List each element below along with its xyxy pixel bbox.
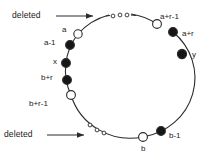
deleted-bottom-mark-2 xyxy=(102,131,106,135)
node-label-y: y xyxy=(192,51,196,59)
deleted-top-mark-1 xyxy=(118,13,122,17)
deleted-arrow-bottom xyxy=(47,132,84,138)
deleted-run-bottom-marks xyxy=(88,123,106,135)
node-label-a-1: a-1 xyxy=(44,39,56,47)
node-label-b: b xyxy=(141,145,145,153)
diagram-canvas: deleted deleted aa-1xb+rb+r-1bb-1ya+ra+r… xyxy=(0,0,212,157)
ring-node-b xyxy=(139,133,148,142)
node-label-b+r-1: b+r-1 xyxy=(29,100,48,108)
ring-node-a+r xyxy=(169,28,178,37)
ring-node-a xyxy=(74,30,82,38)
ring-node-b+r xyxy=(63,76,72,85)
deleted-top-mark-2 xyxy=(125,13,129,17)
deleted-run-top-marks xyxy=(111,13,129,18)
node-label-a+r: a+r xyxy=(182,30,194,38)
ring-node-x xyxy=(62,59,71,68)
node-label-b+r: b+r xyxy=(41,74,53,82)
deleted-label-top: deleted xyxy=(12,11,41,20)
node-label-x: x xyxy=(53,58,57,66)
deleted-top-mark-0 xyxy=(111,14,115,18)
node-label-a: a xyxy=(62,26,66,34)
deleted-bottom-mark-0 xyxy=(88,123,92,127)
deleted-label-bottom: deleted xyxy=(4,130,33,139)
ring-node-y xyxy=(177,49,186,58)
deleted-arrow-top xyxy=(56,13,93,19)
ring-node-a-1 xyxy=(66,41,75,50)
ring-nodes xyxy=(62,20,187,142)
node-label-a+r-1: a+r-1 xyxy=(160,13,179,21)
ring-node-b+r-1 xyxy=(67,91,76,100)
node-label-b-1: b-1 xyxy=(169,132,181,140)
deleted-bottom-mark-1 xyxy=(95,128,99,132)
ring-node-b-1 xyxy=(157,127,166,136)
